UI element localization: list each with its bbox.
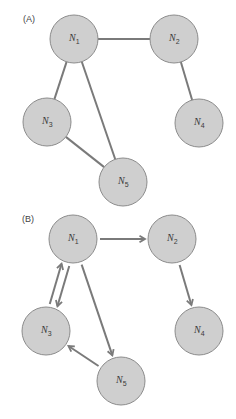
panel-b-label: (B): [22, 214, 34, 224]
panel-a-undirected-graph: N1N2N3N4N5 (A): [23, 14, 223, 206]
edge-n1-n3: [54, 62, 66, 99]
node-n1: N1: [50, 15, 98, 63]
node-n3: N3: [23, 98, 71, 146]
node-n3: N3: [22, 307, 70, 355]
node-n5: N5: [99, 158, 147, 206]
node-n2: N2: [150, 15, 198, 63]
panel-b-directed-graph: N1N2N3N4N5 (B): [22, 214, 223, 405]
node-n1: N1: [49, 215, 97, 263]
edge-n5-n3-arrow: [68, 346, 98, 366]
node-n5: N5: [97, 357, 145, 405]
node-n4: N4: [175, 307, 223, 355]
panel-a-label: (A): [23, 14, 35, 24]
edge-n1-n5: [82, 62, 115, 160]
panel-a-nodes: N1N2N3N4N5: [23, 15, 223, 206]
edge-n2-n4: [181, 62, 192, 100]
edge-n3-n5: [66, 137, 104, 167]
network-diagram-figure: N1N2N3N4N5 (A) N1N2N3N4N5 (B): [0, 0, 236, 419]
edge-n1-n5-arrow: [82, 265, 113, 356]
node-n4: N4: [175, 99, 223, 147]
edge-n2-n4-arrow: [180, 265, 192, 305]
panel-b-nodes: N1N2N3N4N5: [22, 215, 223, 405]
node-n2: N2: [148, 215, 196, 263]
